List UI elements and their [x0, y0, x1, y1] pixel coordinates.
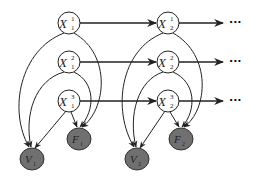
node-v1: V 1	[20, 148, 44, 170]
svg-text:X: X	[157, 94, 167, 109]
svg-text:1: 1	[71, 15, 75, 23]
continuation-dots-1: ···	[229, 16, 242, 29]
svg-text:1: 1	[71, 24, 75, 32]
continuation-dots-3: ···	[229, 94, 242, 107]
edge-x1-3-to-v1	[35, 111, 66, 148]
node-x1-1: X 1 1	[58, 12, 80, 34]
node-x2-2: X 2 2	[157, 51, 179, 73]
dbn-diagram: X 1 1 X 2 1 X 3 1 X 1 2 X 2 2 X 3 2 V 1	[0, 0, 257, 180]
edge-x1-2-to-v1	[29, 72, 64, 147]
edge-x1-1-to-f1	[74, 33, 101, 127]
svg-text:F: F	[71, 133, 79, 145]
svg-text:F: F	[173, 133, 181, 145]
node-f1: F 1	[67, 128, 91, 150]
svg-text:3: 3	[71, 93, 75, 101]
svg-text:X: X	[157, 55, 167, 70]
svg-text:2: 2	[138, 161, 141, 167]
svg-text:2: 2	[182, 141, 185, 147]
continuation-dots-2: ···	[229, 55, 242, 68]
svg-text:2: 2	[71, 54, 75, 62]
svg-text:2: 2	[170, 63, 174, 71]
svg-text:X: X	[58, 94, 68, 109]
edge-x2-1-to-f2	[173, 33, 202, 127]
node-x2-1: X 1 2	[157, 12, 179, 34]
node-x2-3: X 3 2	[157, 90, 179, 112]
svg-text:X: X	[58, 16, 68, 31]
node-x1-2: X 2 1	[58, 51, 80, 73]
edge-x1-3-to-f1	[71, 112, 77, 127]
node-v2: V 2	[125, 148, 149, 170]
edge-x2-3-to-v2	[140, 111, 165, 148]
node-f2: F 2	[169, 128, 193, 150]
svg-text:2: 2	[170, 54, 174, 62]
svg-text:1: 1	[33, 161, 36, 167]
svg-text:2: 2	[170, 102, 174, 110]
edge-x1-1-to-v1	[19, 33, 64, 147]
svg-text:1: 1	[71, 102, 75, 110]
svg-text:X: X	[157, 16, 167, 31]
node-x1-3: X 3 1	[58, 90, 80, 112]
svg-text:1: 1	[71, 63, 75, 71]
emission-edges-slice-2	[122, 33, 202, 148]
svg-text:2: 2	[170, 24, 174, 32]
svg-text:1: 1	[170, 15, 174, 23]
edge-x2-3-to-f2	[170, 112, 179, 127]
svg-text:X: X	[58, 55, 68, 70]
emission-edges-slice-1	[19, 33, 101, 148]
edge-x2-1-to-v2	[122, 33, 163, 147]
svg-text:3: 3	[170, 93, 174, 101]
svg-text:1: 1	[80, 141, 83, 147]
